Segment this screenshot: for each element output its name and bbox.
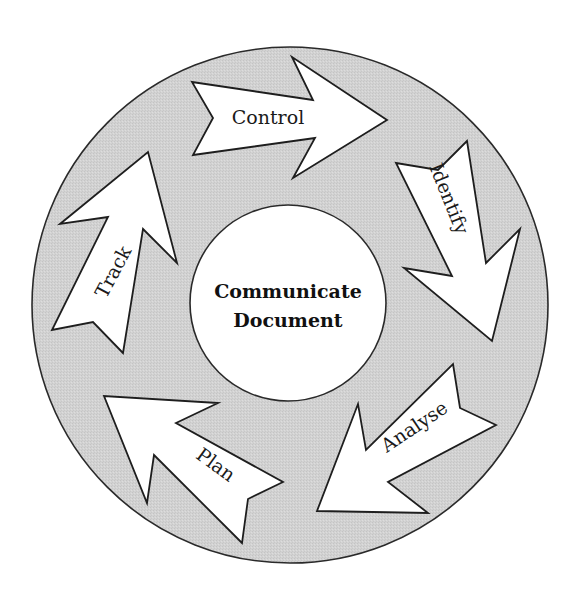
center-label-line1: Communicate [214, 280, 362, 302]
process-cycle-diagram: Control Identify Analyse Plan Track Comm… [0, 0, 576, 595]
center-hub [190, 205, 386, 401]
step-label-control: Control [232, 106, 304, 128]
center-label-line2: Document [233, 309, 343, 331]
